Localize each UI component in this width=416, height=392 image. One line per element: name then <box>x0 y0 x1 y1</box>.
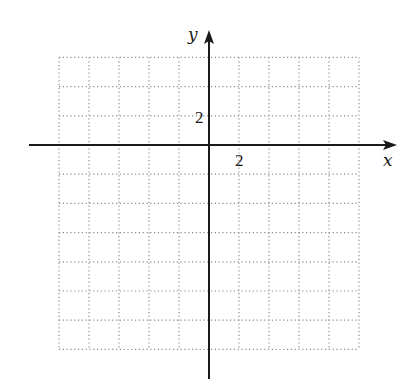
x-axis-label: x <box>383 150 393 170</box>
y-tick-label: 2 <box>195 108 204 127</box>
y-axis-label: y <box>187 24 198 44</box>
coordinate-plane: y x 2 2 <box>0 0 416 392</box>
x-axis <box>29 140 397 150</box>
x-tick-label: 2 <box>235 151 244 170</box>
y-axis <box>204 30 214 379</box>
